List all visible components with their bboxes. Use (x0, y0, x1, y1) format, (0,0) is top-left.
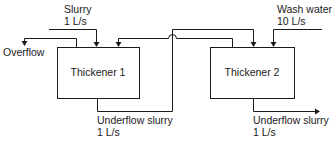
recycle-overflow-stream (116, 35, 233, 48)
arrow-down-icon (251, 42, 257, 47)
underflow-1-label: Underflow slurry (97, 114, 174, 126)
underflow-2-rate: 1 L/s (253, 126, 276, 138)
underflow-2-label: Underflow slurry (253, 114, 330, 126)
arrow-down-icon (271, 42, 277, 47)
wash-water-stream (271, 30, 323, 48)
underflow-1-rate: 1 L/s (97, 126, 120, 138)
underflow-2-stream (254, 98, 321, 115)
wash-water-label: Wash water (277, 3, 333, 15)
arrow-down-icon (116, 42, 122, 47)
slurry-rate: 1 L/s (64, 15, 87, 27)
wash-water-rate: 10 L/s (277, 15, 306, 27)
arrow-down-icon (94, 42, 100, 47)
overflow-label: Overflow (3, 46, 45, 58)
slurry-label: Slurry (64, 3, 92, 15)
thickener-1-label: Thickener 1 (71, 66, 126, 78)
thickener-flow-diagram: Thickener 1 Thickener 2 Slurry 1 L/s Ove… (0, 0, 335, 141)
thickener-2-label: Thickener 2 (225, 66, 280, 78)
